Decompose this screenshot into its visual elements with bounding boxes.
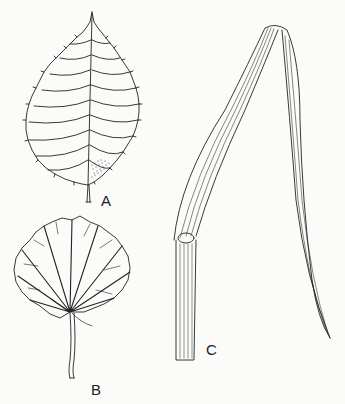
botanical-figure: A B C bbox=[0, 0, 345, 404]
label-b: B bbox=[91, 381, 101, 398]
leaf-illustrations bbox=[0, 0, 345, 404]
label-c: C bbox=[206, 341, 217, 358]
leaf-a-drawing bbox=[23, 12, 142, 202]
leaf-c-drawing bbox=[174, 25, 330, 360]
leaf-b-drawing bbox=[14, 216, 130, 378]
label-a: A bbox=[101, 192, 111, 209]
